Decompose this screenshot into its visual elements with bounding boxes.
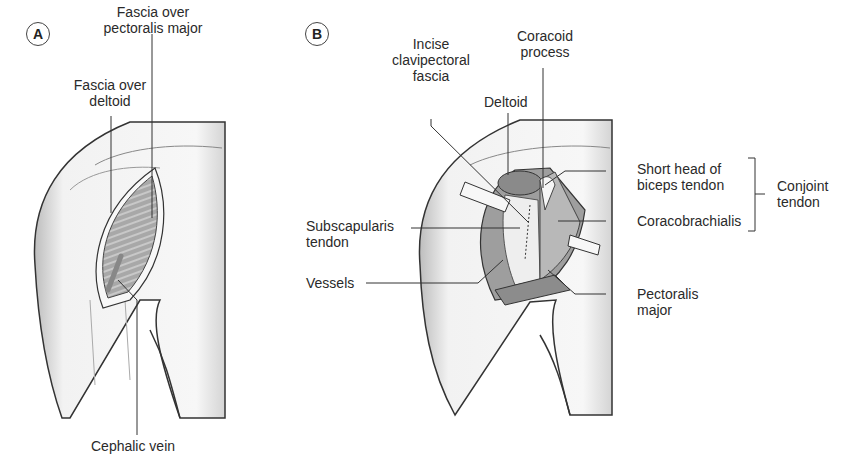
- panel-b-badge: B: [305, 22, 329, 46]
- label-cephalic-vein: Cephalic vein: [91, 438, 175, 454]
- panel-b-shoulder: [366, 68, 765, 415]
- label-coracobrachialis: Coracobrachialis: [637, 213, 741, 229]
- label-conjoint-tendon: Conjoint tendon: [777, 178, 828, 210]
- panel-a-badge: A: [26, 22, 50, 46]
- label-incise-fascia: Incise clavipectoral fascia: [381, 36, 481, 84]
- label-pectoralis-major: Pectoralis major: [637, 286, 698, 318]
- label-coracoid-process: Coracoid process: [505, 28, 585, 60]
- label-fascia-pectoralis: Fascia over pectoralis major: [93, 4, 213, 36]
- label-fascia-deltoid: Fascia over deltoid: [60, 77, 160, 109]
- label-vessels: Vessels: [306, 275, 354, 291]
- label-deltoid: Deltoid: [484, 94, 528, 110]
- label-subscapularis-tendon: Subscapularis tendon: [306, 218, 394, 250]
- label-short-head-biceps: Short head of biceps tendon: [637, 161, 724, 193]
